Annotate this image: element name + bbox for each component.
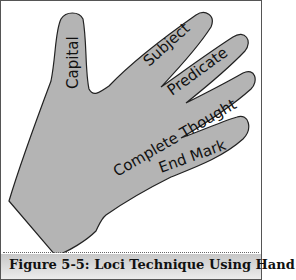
figure-frame: Capital Subject Predicate Complete Thoug…: [0, 0, 262, 280]
hand-illustration: Capital Subject Predicate Complete Thoug…: [1, 1, 261, 253]
hand-diagram: Capital Subject Predicate Complete Thoug…: [1, 1, 261, 253]
caption-divider: [3, 252, 259, 253]
label-capital: Capital: [64, 36, 82, 89]
figure-caption: Figure 5-5: Loci Technique Using Hand: [1, 254, 261, 279]
